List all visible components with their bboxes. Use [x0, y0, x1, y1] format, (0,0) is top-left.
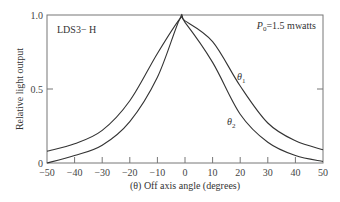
- chart-canvas: 1.0 0.5 0 −50−40−30−20−1001020304050 LDS…: [0, 0, 340, 202]
- x-tick-label: 40: [290, 167, 300, 178]
- x-tick-label: 20: [235, 167, 245, 178]
- device-label: LDS3− H: [57, 24, 96, 35]
- x-tick-label: 10: [208, 167, 218, 178]
- series-label-theta2: θ2: [227, 116, 236, 130]
- curves: [47, 14, 323, 163]
- y-tick-label: 0.5: [31, 84, 44, 95]
- y-tick-label: 1.0: [31, 10, 44, 21]
- x-axis: −50−40−30−20−1001020304050: [39, 157, 328, 178]
- x-tick-label: 50: [318, 167, 328, 178]
- x-tick-label: −10: [150, 167, 166, 178]
- y-axis-title: Relative light output: [14, 48, 25, 130]
- x-axis-title: (θ) Off axis angle (degrees): [130, 180, 240, 192]
- curve-theta2: [47, 14, 323, 163]
- plot-frame: [47, 15, 323, 163]
- x-tick-label: −50: [39, 167, 55, 178]
- power-annotation: P0=1.5 mwatts: [256, 20, 316, 33]
- curve-theta1: [47, 17, 323, 152]
- x-tick-label: −20: [122, 167, 138, 178]
- x-tick-label: 30: [263, 167, 273, 178]
- x-tick-label: −30: [94, 167, 110, 178]
- x-tick-label: −40: [67, 167, 83, 178]
- x-tick-label: 0: [183, 167, 188, 178]
